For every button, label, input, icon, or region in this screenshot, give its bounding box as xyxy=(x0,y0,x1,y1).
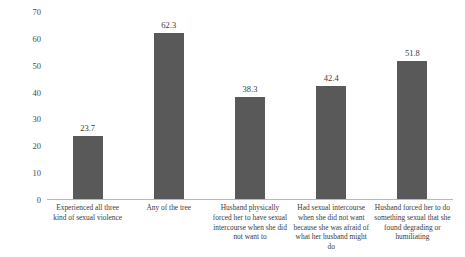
bar-rect[interactable] xyxy=(73,136,103,199)
x-axis-category-label: Husband forced her to do something sexua… xyxy=(372,203,453,242)
x-axis-category-label: Husband physically forced her to have se… xyxy=(209,203,290,242)
bar-slot: 51.8 xyxy=(372,12,453,199)
bar-slot: 38.3 xyxy=(209,12,290,199)
x-axis-category-label: Any of the tree xyxy=(128,203,209,213)
x-axis-category-label: Experienced all three kind of sexual vio… xyxy=(47,203,128,223)
bar-value-label: 38.3 xyxy=(243,85,258,94)
bar-value-label: 62.3 xyxy=(161,21,176,30)
bar-slot: 42.4 xyxy=(291,12,372,199)
x-axis-line xyxy=(47,199,453,200)
x-axis-category-labels: Experienced all three kind of sexual vio… xyxy=(47,203,453,252)
bar-slot: 23.7 xyxy=(47,12,128,199)
y-axis-tick-70: 70 xyxy=(33,8,42,17)
bar-rect[interactable] xyxy=(154,33,184,199)
bar-rect[interactable] xyxy=(235,97,265,199)
y-axis-tick-10: 10 xyxy=(33,169,42,178)
y-axis-tick-0: 0 xyxy=(37,196,41,205)
y-axis-tick-40: 40 xyxy=(33,88,42,97)
bar-rect[interactable] xyxy=(316,86,346,199)
y-axis-tick-50: 50 xyxy=(33,61,42,70)
bar-slot: 62.3 xyxy=(128,12,209,199)
x-axis-category-label: Had sexual intercourse when she did not … xyxy=(291,203,372,252)
bar-rect[interactable] xyxy=(397,61,427,199)
bar-value-label: 51.8 xyxy=(405,49,420,58)
bar-value-label: 23.7 xyxy=(80,124,95,133)
y-axis-tick-30: 30 xyxy=(33,115,42,124)
plot-area: 0 10 20 30 40 50 60 70 23.7 62.3 38.3 42… xyxy=(47,12,453,200)
y-axis-tick-60: 60 xyxy=(33,35,42,44)
bar-value-label: 42.4 xyxy=(324,74,339,83)
bar-chart-figure: 0 10 20 30 40 50 60 70 23.7 62.3 38.3 42… xyxy=(0,0,465,257)
bars-row: 23.7 62.3 38.3 42.4 51.8 xyxy=(47,12,453,199)
y-axis-tick-20: 20 xyxy=(33,142,42,151)
